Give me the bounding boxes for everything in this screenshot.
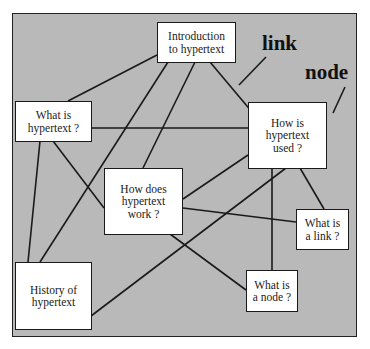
node-how-does-hypertext-work[interactable]: How does hypertext work ? xyxy=(104,168,183,235)
link-how-work-what-link xyxy=(183,208,296,222)
node-history-of-hypertext[interactable]: History of hypertext xyxy=(15,262,92,330)
link-how-used-what-link xyxy=(300,168,324,209)
node-introduction-to-hypertext[interactable]: Introduction to hypertext xyxy=(157,22,236,63)
node-how-is-hypertext-used[interactable]: How is hypertext used ? xyxy=(248,102,327,169)
node-what-is-hypertext[interactable]: What is hypertext ? xyxy=(15,101,92,142)
link-intro-how-used xyxy=(210,62,252,112)
annotation-node-label: node xyxy=(305,60,348,85)
node-what-is-a-link[interactable]: What is a link ? xyxy=(296,209,349,250)
link-intro-how-work xyxy=(143,62,195,168)
link-intro-what-hypertext xyxy=(68,55,157,101)
annotation-link-label: link xyxy=(262,31,297,56)
link-what-hypertext-history xyxy=(28,141,40,262)
link-how-work-what-node xyxy=(170,234,246,290)
link-how-used-how-work xyxy=(183,155,248,199)
annotation-pointer-node xyxy=(333,87,345,113)
annotation-pointer-link xyxy=(239,57,266,85)
node-what-is-a-node[interactable]: What is a node ? xyxy=(246,270,298,312)
